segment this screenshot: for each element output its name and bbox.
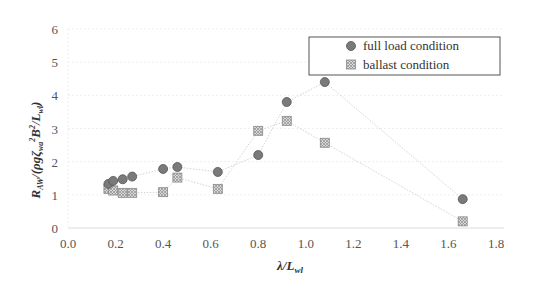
y-tick-label: 3 — [52, 122, 59, 137]
x-tick-label: 1.6 — [440, 236, 457, 251]
ballast-point — [320, 138, 329, 147]
ballast-point — [254, 126, 263, 135]
ballast-point — [458, 217, 467, 226]
x-tick-label: 0.8 — [250, 236, 266, 251]
full-load-point — [159, 164, 168, 173]
y-axis-title: RAW/(ρgζwa2B2/Lwl) — [28, 102, 45, 200]
y-tick-label: 4 — [52, 88, 59, 103]
legend-circle-marker-icon — [347, 42, 356, 51]
legend-square-marker-icon — [347, 60, 356, 69]
x-tick-label: 0.2 — [107, 236, 123, 251]
x-tick-label: 1.8 — [488, 236, 504, 251]
legend-item-ballast: ballast condition — [363, 57, 450, 72]
x-tick-label: 0.6 — [203, 236, 220, 251]
x-tick-label: 0.0 — [60, 236, 76, 251]
ballast-point — [173, 173, 182, 182]
ballast-point — [128, 188, 137, 197]
full-load-point — [118, 175, 127, 184]
y-tick-label: 2 — [52, 155, 59, 170]
ballast-point — [159, 188, 168, 197]
ballast-point — [282, 116, 291, 125]
legend: full load condition ballast condition — [309, 37, 500, 75]
full-load-point — [213, 167, 222, 176]
full-load-point — [254, 151, 263, 160]
ballast-point — [118, 188, 127, 197]
ballast-point — [213, 184, 222, 193]
full-load-point — [458, 195, 467, 204]
y-tick-label: 1 — [52, 188, 59, 203]
y-tick-label: 6 — [52, 22, 59, 37]
full-load-point — [282, 97, 291, 106]
legend-item-full-load: full load condition — [363, 38, 460, 53]
y-axis-ticks: 0123456 — [52, 22, 59, 236]
x-tick-label: 1.4 — [393, 236, 410, 251]
x-tick-label: 1.2 — [345, 236, 361, 251]
full-load-point — [173, 162, 182, 171]
y-tick-label: 5 — [52, 55, 59, 70]
x-tick-label: 0.4 — [155, 236, 172, 251]
chart: 0.00.20.40.60.81.01.21.41.61.8 0123456 λ… — [0, 0, 533, 286]
data-markers — [104, 78, 467, 226]
y-tick-label: 0 — [52, 221, 59, 236]
full-load-point — [320, 78, 329, 87]
x-axis-ticks: 0.00.20.40.60.81.01.21.41.61.8 — [60, 236, 504, 251]
x-tick-label: 1.0 — [298, 236, 314, 251]
full-load-point — [109, 176, 118, 185]
x-axis-title: λ/Lwl — [276, 258, 303, 275]
full-load-point — [128, 172, 137, 181]
